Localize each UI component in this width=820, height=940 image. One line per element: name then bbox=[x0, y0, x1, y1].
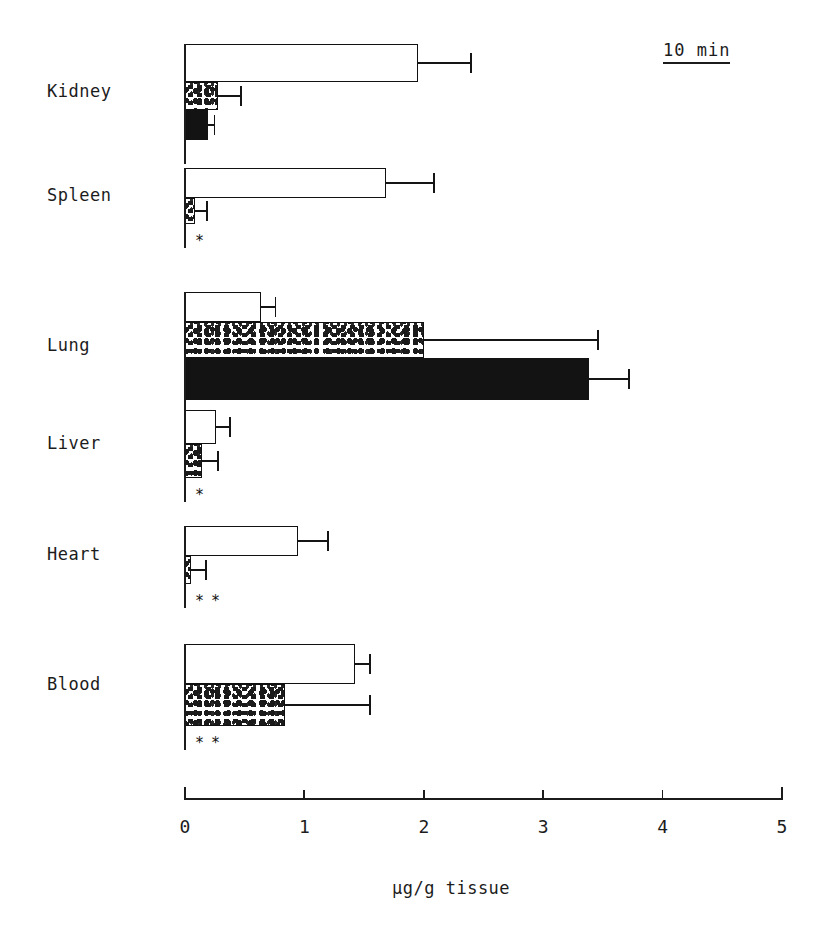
category-label-spleen: Spleen bbox=[47, 185, 111, 205]
error-cap-spleen-stippled bbox=[206, 201, 208, 221]
x-axis-tick-label-3: 3 bbox=[523, 816, 563, 837]
x-axis-tick-0 bbox=[184, 787, 186, 800]
group-baseline-spleen bbox=[184, 168, 186, 248]
error-cap-heart-white bbox=[327, 531, 329, 551]
error-bar-liver-stippled bbox=[202, 460, 218, 462]
group-baseline-heart bbox=[184, 526, 186, 608]
error-bar-lung-white bbox=[261, 306, 274, 308]
significance-mark-blood: ** bbox=[195, 736, 227, 751]
error-cap-lung-white bbox=[275, 297, 277, 317]
x-axis-tick-5 bbox=[781, 787, 783, 800]
significance-mark-spleen: * bbox=[195, 234, 211, 249]
bar-blood-white bbox=[185, 644, 355, 684]
x-axis-tick-label-1: 1 bbox=[284, 816, 324, 837]
bar-liver-stippled bbox=[185, 444, 202, 478]
error-cap-lung-stippled bbox=[597, 330, 599, 350]
bar-kidney-stippled bbox=[185, 82, 218, 110]
bar-lung-stippled bbox=[185, 322, 424, 358]
x-axis-tick-label-5: 5 bbox=[762, 816, 802, 837]
error-cap-blood-stippled bbox=[369, 695, 371, 715]
category-label-lung: Lung bbox=[47, 335, 90, 355]
group-baseline-lung bbox=[184, 292, 186, 424]
category-label-liver: Liver bbox=[47, 433, 101, 453]
error-bar-lung-stippled bbox=[424, 339, 597, 341]
x-axis-tick-label-2: 2 bbox=[404, 816, 444, 837]
bar-lung-black bbox=[185, 358, 589, 400]
x-axis-tick-2 bbox=[423, 790, 425, 799]
significance-mark-liver: * bbox=[195, 488, 211, 503]
category-label-kidney: Kidney bbox=[47, 81, 111, 101]
group-baseline-kidney bbox=[184, 44, 186, 164]
error-bar-kidney-white bbox=[418, 62, 471, 64]
error-bar-spleen-stippled bbox=[195, 210, 207, 212]
x-axis-title: µg/g tissue bbox=[392, 878, 510, 898]
group-baseline-blood bbox=[184, 644, 186, 750]
category-label-blood: Blood bbox=[47, 674, 101, 694]
error-bar-blood-white bbox=[355, 663, 369, 665]
error-bar-blood-stippled bbox=[285, 704, 369, 706]
error-cap-kidney-stippled bbox=[240, 86, 242, 106]
error-cap-lung-black bbox=[628, 369, 630, 389]
error-cap-blood-white bbox=[369, 654, 371, 674]
bar-heart-white bbox=[185, 526, 298, 556]
time-annotation: 10 min bbox=[663, 40, 730, 64]
x-axis-tick-3 bbox=[542, 790, 544, 799]
bar-kidney-black bbox=[185, 110, 208, 140]
error-bar-heart-white bbox=[298, 540, 327, 542]
error-bar-lung-black bbox=[589, 378, 628, 380]
bar-spleen-stippled bbox=[185, 198, 195, 224]
x-axis-tick-4 bbox=[662, 790, 664, 799]
bar-blood-stippled bbox=[185, 684, 285, 726]
x-axis-tick-1 bbox=[303, 790, 305, 799]
error-bar-spleen-white bbox=[386, 182, 434, 184]
bar-lung-white bbox=[185, 292, 261, 322]
x-axis-line bbox=[185, 798, 782, 800]
error-cap-spleen-white bbox=[433, 173, 435, 193]
bar-kidney-white bbox=[185, 44, 418, 82]
bar-spleen-white bbox=[185, 168, 386, 198]
significance-mark-heart: ** bbox=[195, 594, 227, 609]
x-axis-tick-label-4: 4 bbox=[643, 816, 683, 837]
category-label-heart: Heart bbox=[47, 544, 101, 564]
error-cap-kidney-white bbox=[470, 53, 472, 73]
bar-chart: KidneySpleen*LungLiver*Heart**Blood**012… bbox=[0, 0, 820, 940]
error-bar-liver-white bbox=[216, 426, 229, 428]
error-bar-heart-stippled bbox=[191, 569, 205, 571]
error-cap-heart-stippled bbox=[205, 560, 207, 580]
x-axis-tick-label-0: 0 bbox=[165, 816, 205, 837]
time-annotation-underline bbox=[663, 62, 730, 64]
error-cap-kidney-black bbox=[214, 115, 216, 135]
time-annotation-text: 10 min bbox=[663, 40, 730, 60]
error-bar-kidney-stippled bbox=[218, 95, 239, 97]
error-cap-liver-white bbox=[229, 417, 231, 437]
error-cap-liver-stippled bbox=[217, 451, 219, 471]
bar-liver-white bbox=[185, 410, 216, 444]
group-baseline-liver bbox=[184, 410, 186, 502]
plot-area: KidneySpleen*LungLiver*Heart**Blood**012… bbox=[0, 0, 820, 940]
